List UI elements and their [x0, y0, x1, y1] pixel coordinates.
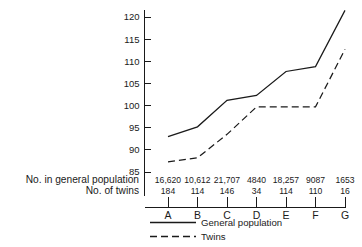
y-axis: 859095100105110115120	[124, 10, 151, 196]
annotation-value: 114	[191, 186, 205, 196]
annotation-value: 9087	[306, 175, 325, 185]
annotation-rows: No. in general population No. of twins 1…	[26, 174, 355, 196]
x-axis-category-label: G	[341, 209, 349, 221]
chart-figure: 859095100105110115120 No. in general pop…	[0, 0, 362, 247]
chart-svg: 859095100105110115120 No. in general pop…	[0, 0, 362, 247]
legend-label-twins: Twins	[201, 231, 226, 242]
annotation-value: 16,620	[155, 175, 182, 185]
x-axis-category-label: E	[282, 209, 289, 221]
x-axis-category-label: F	[312, 209, 318, 221]
annotation-value: 184	[161, 186, 176, 196]
annotation-value: 1653	[335, 175, 354, 185]
y-axis-tick-label: 90	[129, 144, 140, 155]
annotation-row-label-twins: No. of twins	[86, 185, 139, 196]
y-axis-tick-label: 100	[124, 100, 140, 111]
x-axis-ticks	[168, 197, 345, 208]
series-line-general-population	[168, 10, 345, 136]
y-axis-tick-label: 95	[129, 122, 140, 133]
x-axis-category-label: B	[194, 209, 201, 221]
annotation-value: 21,707	[214, 175, 241, 185]
y-axis-tick-label: 110	[124, 56, 139, 67]
annotation-row-label-general-population: No. in general population	[26, 174, 139, 185]
annotation-value: 110	[309, 186, 323, 196]
y-axis-tick-labels: 859095100105110115120	[124, 11, 140, 177]
y-axis-ticks	[145, 17, 151, 172]
y-axis-tick-label: 105	[124, 78, 140, 89]
annotation-row-values-twins: 1841141463411411016	[161, 186, 350, 196]
series-line-twins	[168, 49, 345, 161]
y-axis-tick-label: 115	[124, 34, 139, 45]
annotation-value: 4840	[247, 175, 266, 185]
annotation-row-values-general-population: 16,62010,61221,707484018,25790871653	[155, 175, 355, 185]
annotation-value: 146	[220, 186, 235, 196]
annotation-value: 18,257	[273, 175, 300, 185]
annotation-value: 10,612	[184, 175, 211, 185]
annotation-value: 16	[340, 186, 350, 196]
annotation-value: 114	[279, 186, 293, 196]
y-axis-tick-label: 120	[124, 11, 140, 22]
legend-label-general-population: General population	[201, 217, 282, 228]
plot-series-area	[168, 10, 345, 161]
annotation-value: 34	[252, 186, 262, 196]
x-axis-category-label: A	[164, 209, 171, 221]
